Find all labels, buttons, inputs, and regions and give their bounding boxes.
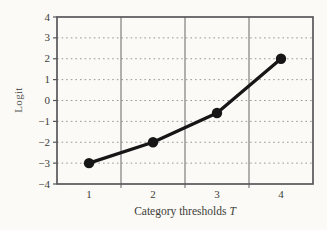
y-tick-label: −1: [38, 115, 50, 127]
y-tick-label: 3: [45, 31, 51, 43]
y-tick-label: −2: [38, 136, 50, 148]
y-axis-title: Logit: [12, 87, 24, 112]
x-axis-title-text: Category thresholds: [134, 205, 226, 217]
y-tick-label: 4: [45, 11, 51, 23]
x-tick-label: 2: [150, 188, 156, 200]
x-axis-title-variable: T: [229, 205, 235, 217]
x-tick-label: 1: [86, 188, 92, 200]
y-tick-label: 1: [45, 73, 51, 85]
data-point: [84, 158, 94, 168]
y-tick-label: −4: [38, 178, 50, 190]
data-point: [212, 108, 222, 118]
x-tick-label: 3: [214, 188, 220, 200]
data-point: [148, 137, 158, 147]
x-tick-label: 4: [278, 188, 284, 200]
y-tick-label: 0: [45, 94, 51, 106]
y-tick-label: 2: [45, 52, 51, 64]
y-tick-label: −3: [38, 157, 50, 169]
x-axis-title: Category thresholdsT: [134, 205, 236, 217]
logit-threshold-chart: −4−3−2−1012341234 Logit Category thresho…: [0, 0, 327, 230]
chart-canvas: −4−3−2−1012341234: [0, 0, 327, 230]
data-point: [276, 54, 286, 64]
